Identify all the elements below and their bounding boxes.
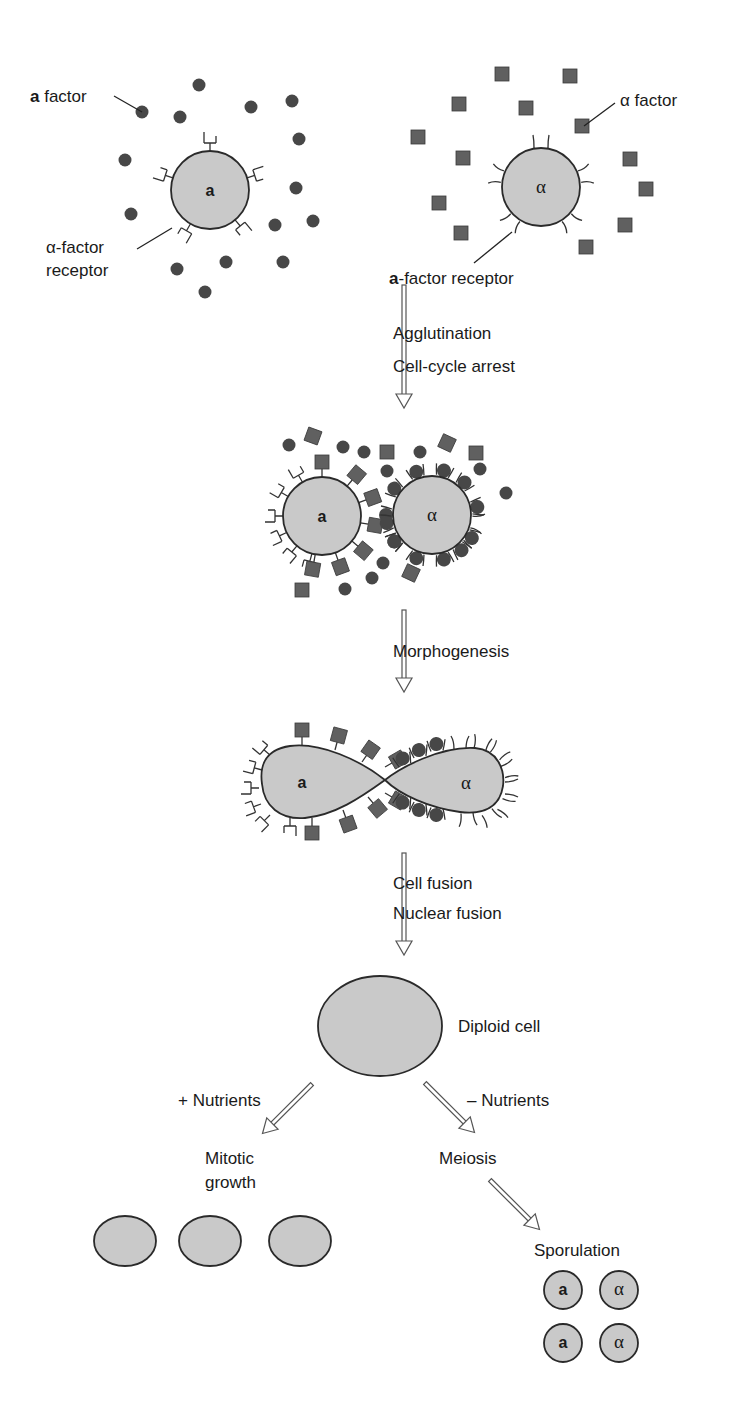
stage2-agglutination: a α (265, 427, 513, 597)
a-cell-label: a (206, 182, 215, 199)
down-arrow-icon (396, 394, 412, 408)
a-factor-receptor-empty (458, 812, 477, 827)
down-arrow-shaft (402, 853, 406, 943)
a-factor-molecule (377, 557, 390, 570)
alpha-factor-receptor-bound (315, 455, 329, 477)
spores: aαaα (544, 1271, 638, 1362)
alpha-factor-receptor-bound (295, 723, 309, 745)
mitotic-label-line2: growth (205, 1173, 256, 1192)
spore-label: a (559, 1281, 568, 1298)
a-factor-molecule (474, 463, 487, 476)
a-factor-molecule (307, 215, 320, 228)
mitotic-label-line1: Mitotic (205, 1149, 255, 1168)
alpha-receptor-label-line2: receptor (46, 261, 109, 280)
step-agglutination: AgglutinationCell-cycle arrest (393, 285, 515, 408)
alpha-receptor-label-line1: α-factor (46, 238, 104, 257)
alpha-factor-molecule (454, 226, 468, 240)
alpha-factor-receptor-empty (284, 818, 296, 836)
stage3-morphogenesis: a α (241, 723, 518, 840)
alpha-factor-molecule (563, 69, 577, 83)
spore-label: α (614, 1331, 624, 1352)
down-arrow-icon (396, 941, 412, 955)
spore-alpha: α (600, 1271, 638, 1309)
alpha-factor-receptor-empty (265, 510, 283, 522)
a-factor-molecule (286, 95, 299, 108)
alpha-cell-label: α (536, 176, 546, 197)
a-factor-molecule (125, 208, 138, 221)
a-factor-molecule (119, 154, 132, 167)
alpha-factor-receptor-bound (359, 516, 383, 534)
a-receptor-label-rest: -factor receptor (398, 269, 514, 288)
a-factor-molecule (339, 583, 352, 596)
diploid-cell (318, 976, 442, 1076)
diagram-canvas: a a factor α-factor receptor α α factor … (0, 0, 730, 1408)
alpha-factor-molecule (438, 434, 457, 453)
alpha-factor-receptor-bound (328, 727, 347, 752)
alpha-factor-leader-line (584, 103, 615, 126)
down-arrow-icon (396, 678, 412, 692)
alpha-factor-receptor-bound (305, 818, 319, 840)
a-factor-receptor-bound (409, 742, 429, 759)
step-fusion: Cell fusionNuclear fusion (393, 853, 502, 955)
spore-a: a (544, 1324, 582, 1362)
spore-alpha: α (600, 1324, 638, 1362)
alpha-factor-molecule (495, 67, 509, 81)
alpha-factor-molecule (623, 152, 637, 166)
mitotic-daughter-cell (179, 1216, 241, 1266)
alpha-factor-receptor-empty (243, 760, 263, 776)
a-factor-receptor-empty (451, 736, 469, 749)
spore-label: α (614, 1278, 624, 1299)
a-receptor-leader-line (474, 232, 512, 263)
a-factor-label: a factor (30, 87, 87, 106)
alpha-factor-molecule (618, 218, 632, 232)
alpha-factor-receptor-bound (356, 740, 380, 766)
a-factor-molecule (381, 465, 394, 478)
a-factor-molecule (283, 439, 296, 452)
a-factor-molecule (245, 101, 258, 114)
stage4-outcomes: Diploid cell + Nutrients – Nutrients Mit… (94, 976, 638, 1362)
spore-a: a (544, 1271, 582, 1309)
stage2-alpha-label: α (427, 504, 437, 525)
process-steps: AgglutinationCell-cycle arrestMorphogene… (393, 285, 515, 955)
meiosis-label: Meiosis (439, 1149, 497, 1168)
a-factor-molecule (290, 182, 303, 195)
alpha-factor-molecule (469, 446, 483, 460)
alpha-factor-receptor-bound (336, 808, 357, 833)
a-factor-leader-line (114, 96, 142, 112)
alpha-factor-molecule (304, 427, 322, 445)
sporulation-label: Sporulation (534, 1241, 620, 1260)
alpha-factor-molecule (639, 182, 653, 196)
alpha-factor-molecule (380, 445, 394, 459)
step-label: Agglutination (393, 324, 491, 343)
stage1-a-cell-group: a (119, 79, 320, 299)
a-factor-receptor-empty (505, 779, 518, 797)
arrow-plus-nutrients (257, 1078, 318, 1139)
diploid-cell-label: Diploid cell (458, 1017, 540, 1036)
a-factor-molecule (171, 263, 184, 276)
alpha-factor-receptor-empty (241, 782, 259, 794)
a-factor-molecule (193, 79, 206, 92)
minus-nutrients-label: – Nutrients (467, 1091, 549, 1110)
alpha-factor-molecule (519, 101, 533, 115)
alpha-factor-molecule (411, 130, 425, 144)
mitotic-cells (94, 1216, 331, 1266)
alpha-factor-molecule (432, 196, 446, 210)
step-label: Nuclear fusion (393, 904, 502, 923)
a-factor-molecule (220, 256, 233, 269)
alpha-factor-receptor-bound (363, 793, 388, 819)
yeast-mating-diagram: a a factor α-factor receptor α α factor … (0, 0, 730, 1408)
mitotic-daughter-cell (94, 1216, 156, 1266)
a-factor-molecule (500, 487, 513, 500)
a-factor-molecule (358, 446, 371, 459)
alpha-factor-molecule (579, 240, 593, 254)
step-label: Cell-cycle arrest (393, 357, 515, 376)
mitotic-daughter-cell (269, 1216, 331, 1266)
a-factor-molecule (293, 133, 306, 146)
a-factor-molecule (269, 219, 282, 232)
alpha-factor-molecule (452, 97, 466, 111)
shmoo-a-label: a (298, 774, 307, 791)
plus-nutrients-label: + Nutrients (178, 1091, 261, 1110)
shmoo-alpha-label: α (461, 772, 471, 793)
alpha-factor-molecule (402, 564, 421, 583)
alpha-receptor-leader-line (137, 228, 172, 249)
